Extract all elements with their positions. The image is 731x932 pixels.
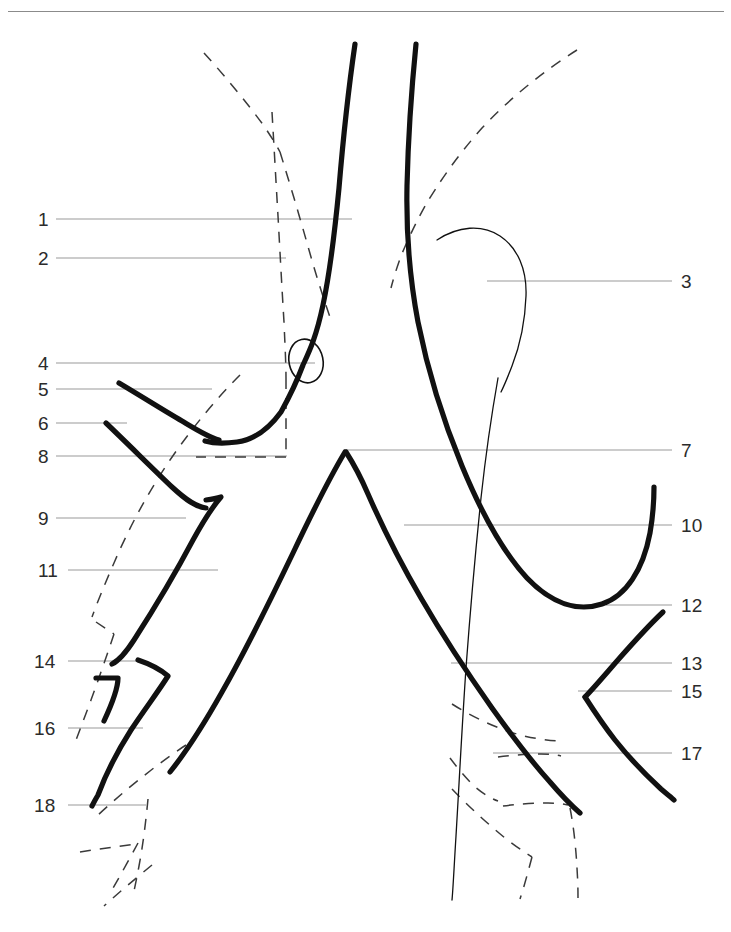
label-number-10[interactable]: 10 (681, 516, 703, 535)
rib-right-lower-d (520, 857, 532, 899)
label-number-15[interactable]: 15 (681, 682, 703, 701)
carina-bifurcation-left-limb (170, 452, 345, 772)
aortic-arch-right-descending (407, 44, 654, 607)
label-number-2[interactable]: 2 (38, 249, 49, 268)
rib-right-lower-c (570, 808, 578, 898)
anatomical-diagram (0, 0, 731, 932)
label-number-5[interactable]: 5 (38, 380, 49, 399)
rib-lower-left-a (80, 844, 136, 852)
left-common-carotid-ascending (205, 44, 355, 443)
rib-lower-left-c (104, 865, 152, 906)
left-lower-lung-tick (96, 622, 114, 634)
label-number-3[interactable]: 3 (681, 272, 692, 291)
thick-vessel-group (92, 44, 674, 813)
label-number-4[interactable]: 4 (38, 354, 49, 373)
upper-right-lung-border (391, 50, 577, 288)
left-subclavian-upper-branch (119, 383, 219, 440)
label-number-18[interactable]: 18 (34, 796, 56, 815)
left-descending-to-18 (92, 660, 168, 806)
right-branch-descend-15 (585, 697, 674, 800)
rib-right-lower-b (503, 803, 568, 806)
leader-line-group (56, 219, 672, 805)
label-number-14[interactable]: 14 (34, 652, 56, 671)
azygos-arch-hook (437, 228, 526, 392)
left-lung-lower-border (76, 634, 114, 740)
right-branch-lower-12 (585, 612, 663, 697)
rib-upper-left (96, 745, 186, 817)
figure-page: 124568911141618 371012131517 (0, 0, 731, 932)
label-number-17[interactable]: 17 (681, 744, 703, 763)
label-number-8[interactable]: 8 (38, 447, 49, 466)
label-number-16[interactable]: 16 (34, 719, 56, 738)
dashed-outline-group (76, 50, 578, 906)
left-branch-lower (106, 423, 206, 508)
label-number-9[interactable]: 9 (38, 509, 49, 528)
label-number-13[interactable]: 13 (681, 654, 703, 673)
rib-lower-left-b (112, 843, 138, 890)
rib-right-upper (452, 704, 561, 741)
upper-left-lung-border (204, 53, 280, 152)
label-number-12[interactable]: 12 (681, 596, 703, 615)
upper-left-trachea-border (272, 112, 286, 378)
label-number-1[interactable]: 1 (38, 210, 49, 229)
rib-right-lower-a (452, 789, 532, 857)
left-short-hook-16 (96, 678, 118, 721)
label-number-7[interactable]: 7 (681, 441, 692, 460)
carina-bifurcation-right-limb (346, 452, 580, 813)
label-number-6[interactable]: 6 (38, 414, 49, 433)
label-number-11[interactable]: 11 (38, 561, 58, 580)
left-branch-hook (112, 497, 221, 664)
